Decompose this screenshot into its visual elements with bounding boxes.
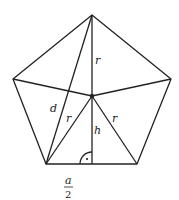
right-angle-arc <box>80 152 92 164</box>
pentagon-diagram: r d r r h a 2 <box>0 0 179 200</box>
center-dot <box>90 94 94 98</box>
right-angle-dot <box>86 158 88 160</box>
radius-right-vertex <box>92 79 171 96</box>
radius-left-vertex <box>13 79 92 96</box>
label-r-left: r <box>66 112 72 125</box>
label-half-a-denominator: 2 <box>65 189 71 200</box>
label-h: h <box>94 124 101 137</box>
label-r-top: r <box>95 54 101 67</box>
diagonal-d <box>46 15 92 164</box>
label-half-a-numerator: a <box>65 174 72 187</box>
label-d: d <box>50 102 57 115</box>
label-r-right: r <box>112 112 118 125</box>
